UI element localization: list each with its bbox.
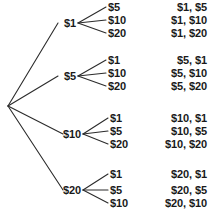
- fan-edge-3-3: [83, 134, 108, 144]
- first-bill-label-2: $5: [64, 71, 76, 82]
- tree-diagram: $1$5$10$20$1, $5$1, $10$1, $20$5$1$10$20…: [0, 0, 216, 214]
- second-bill-label-3-2: $5: [110, 126, 122, 137]
- outcome-label-3-3: $10, $20: [165, 139, 207, 150]
- fan-edge-2-3: [78, 76, 106, 86]
- second-bill-label-1-2: $10: [108, 15, 126, 26]
- outcome-label-1-1: $1, $5: [177, 2, 207, 13]
- second-bill-label-4-3: $10: [110, 198, 128, 209]
- fan-edge-group: [78, 7, 108, 203]
- first-bill-label-3: $10: [63, 129, 81, 140]
- first-bill-label-1: $1: [64, 18, 76, 29]
- second-bill-label-4-2: $5: [110, 185, 122, 196]
- second-bill-label-2-2: $10: [108, 68, 126, 79]
- outcome-label-1-3: $1, $20: [171, 28, 207, 39]
- second-bill-label-3-3: $20: [110, 139, 128, 150]
- trunk-edge-1: [8, 23, 58, 106]
- outcome-label-1-2: $1, $10: [171, 15, 207, 26]
- second-bill-label-2-3: $20: [108, 81, 126, 92]
- outcome-label-2-1: $5, $1: [177, 55, 207, 66]
- second-bill-label-3-1: $1: [110, 113, 122, 124]
- outcome-label-4-1: $20, $1: [171, 169, 207, 180]
- trunk-edge-3: [8, 106, 63, 134]
- outcome-label-2-2: $5, $10: [171, 68, 207, 79]
- trunk-edge-group: [8, 23, 63, 190]
- outcome-label-3-2: $10, $5: [171, 126, 207, 137]
- trunk-edge-2: [8, 76, 58, 106]
- second-bill-label-2-1: $1: [108, 55, 120, 66]
- outcome-label-4-2: $20, $5: [171, 185, 207, 196]
- outcome-label-2-3: $5, $20: [171, 81, 207, 92]
- second-bill-label-1-3: $20: [108, 28, 126, 39]
- first-bill-label-4: $20: [63, 185, 81, 196]
- fan-edge-4-1: [83, 174, 108, 190]
- outcome-label-4-3: $20, $10: [165, 198, 207, 209]
- second-bill-label-1-1: $5: [108, 2, 120, 13]
- outcome-label-3-1: $10, $1: [171, 113, 207, 124]
- trunk-edge-4: [8, 106, 63, 190]
- fan-edge-4-3: [83, 190, 108, 203]
- fan-edge-1-3: [78, 23, 106, 33]
- second-bill-label-4-1: $1: [110, 169, 122, 180]
